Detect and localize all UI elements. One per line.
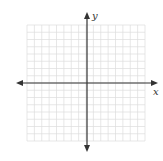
y-axis-down-arrow-icon: [84, 145, 90, 152]
x-axis-left-arrow-icon: [16, 80, 23, 86]
y-axis-up-arrow-icon: [84, 12, 90, 19]
coordinate-plane: [0, 0, 163, 161]
axes: [16, 12, 158, 152]
x-axis-label: x: [153, 87, 159, 97]
y-axis-label: y: [92, 11, 98, 21]
